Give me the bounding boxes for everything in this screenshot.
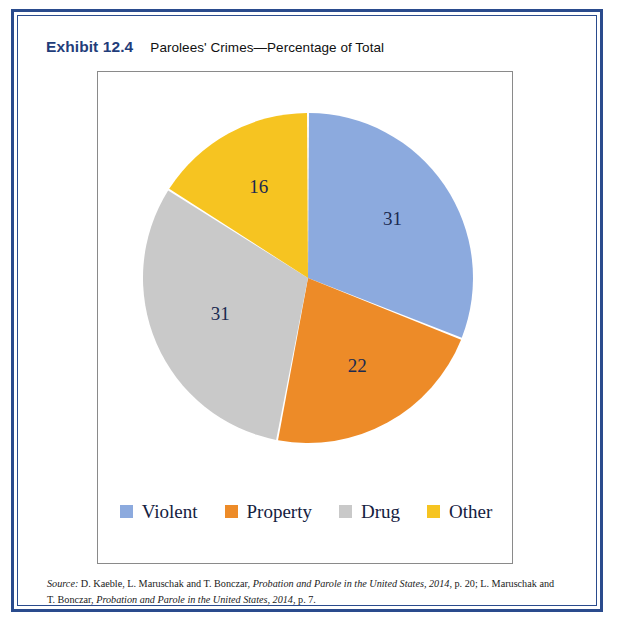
exhibit-title: Parolees' Crimes—Percentage of Total (150, 40, 384, 55)
legend-swatch-icon-property (225, 505, 238, 518)
legend-swatch-icon-violent (120, 505, 133, 518)
pie-chart-svg: 31223116 (98, 72, 514, 512)
chart-plot-area: 31223116 ViolentPropertyDrugOther (97, 71, 513, 564)
source-line1-text-a: D. Kaeble, L. Maruschak and T. Bonczar, (78, 578, 252, 589)
legend-label: Other (449, 502, 492, 521)
legend-swatch-icon-other (427, 505, 440, 518)
pie-value-label-drug: 31 (211, 303, 230, 324)
pie-slice-group (143, 113, 473, 443)
legend-label: Violent (142, 502, 198, 521)
legend-label: Drug (361, 502, 400, 521)
source-line2-text-a: T. Bonczar, (47, 594, 96, 605)
source-line2-text-b: , p. 7. (293, 594, 316, 605)
legend-swatch-icon-drug (339, 505, 352, 518)
source-line-2: T. Bonczar, Probation and Parole in the … (47, 592, 563, 608)
legend-item-property[interactable]: Property (225, 502, 312, 521)
exhibit-header: Exhibit 12.4 Parolees' Crimes—Percentage… (46, 38, 384, 60)
pie-chart: 31223116 (98, 72, 514, 512)
legend-item-drug[interactable]: Drug (339, 502, 400, 521)
pie-value-label-violent: 31 (383, 208, 402, 229)
pie-value-label-other: 16 (249, 176, 268, 197)
source-label: Source: (47, 578, 78, 589)
source-line-1: Source: D. Kaeble, L. Maruschak and T. B… (47, 576, 563, 592)
source-line2-italic: Probation and Parole in the United State… (96, 594, 293, 605)
chart-legend: ViolentPropertyDrugOther (98, 502, 514, 521)
source-line1-italic: Probation and Parole in the United State… (253, 578, 450, 589)
exhibit-page: Exhibit 12.4 Parolees' Crimes—Percentage… (0, 0, 618, 623)
legend-item-other[interactable]: Other (427, 502, 492, 521)
pie-value-label-property: 22 (348, 355, 367, 376)
source-note: Source: D. Kaeble, L. Maruschak and T. B… (47, 576, 563, 607)
legend-item-violent[interactable]: Violent (120, 502, 198, 521)
source-line1-text-b: , p. 20; L. Maruschak and (449, 578, 554, 589)
exhibit-number-label: Exhibit 12.4 (46, 38, 133, 56)
legend-label: Property (247, 502, 312, 521)
